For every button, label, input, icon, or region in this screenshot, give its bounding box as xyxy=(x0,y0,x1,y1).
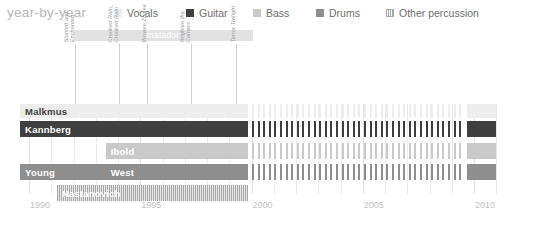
label-band-matador: matador xyxy=(74,30,253,41)
album-marker-label-line: Corners xyxy=(185,11,191,42)
legend-item-vocals[interactable]: Vocals xyxy=(114,6,158,20)
timeline-row: YoungWest xyxy=(0,164,554,180)
album-marker-label: Brighten theCorners xyxy=(179,11,191,44)
timeline-segment[interactable] xyxy=(252,104,464,118)
timeline-segment[interactable]: Kannberg xyxy=(20,121,248,137)
timeline-segment[interactable]: West xyxy=(106,164,248,180)
legend-swatch-icon xyxy=(386,9,394,17)
timeline-segment-label: West xyxy=(111,167,134,178)
album-marker: Wowee Zowee xyxy=(147,44,148,106)
album-marker-label-line: Crooked Rain xyxy=(113,5,119,42)
album-marker: Brighten theCorners xyxy=(191,44,192,106)
timeline-segment-label: Young xyxy=(25,167,55,178)
timeline-segment[interactable] xyxy=(467,143,496,159)
album-marker-label: Terror Twilight xyxy=(230,6,236,44)
legend-item-guitar[interactable]: Guitar xyxy=(186,6,228,20)
legend-swatch-icon xyxy=(316,9,324,17)
timeline-segment[interactable] xyxy=(252,121,464,137)
album-marker-label: Wowee Zowee xyxy=(141,4,147,44)
album-marker: Slanted andEnchanted xyxy=(75,44,76,106)
timeline-segment-label: Malkmus xyxy=(25,106,67,117)
album-marker: Terror Twilight xyxy=(236,44,237,106)
legend-item-other-percussion[interactable]: Other percussion xyxy=(386,6,479,20)
album-marker-label-line: Terror Twilight xyxy=(230,6,236,42)
album-marker-label-line: Wowee Zowee xyxy=(141,4,147,42)
timeline-row: Ibold xyxy=(0,143,554,159)
timeline-segment[interactable]: Ibold xyxy=(106,143,248,159)
label-band-text: matador xyxy=(74,30,253,41)
album-marker-label: Crooked Rain,Crooked Rain xyxy=(107,5,119,44)
legend-label: Guitar xyxy=(199,7,228,19)
legend-swatch-icon xyxy=(253,9,261,17)
legend-item-bass[interactable]: Bass xyxy=(253,6,289,20)
legend-label: Drums xyxy=(329,7,360,19)
timeline-segment[interactable] xyxy=(467,121,496,137)
album-marker-label-line: Enchanted xyxy=(68,11,74,42)
timeline-segment[interactable] xyxy=(252,143,464,159)
timeline-segment-label: Kannberg xyxy=(25,124,71,135)
x-axis-tick-label: 2005 xyxy=(364,200,384,210)
x-axis-tick-label: 1995 xyxy=(141,200,161,210)
album-marker-label-line: Slanted and xyxy=(62,11,68,42)
timeline-row: Malkmus xyxy=(0,104,554,118)
timeline-segment[interactable] xyxy=(467,104,496,118)
timeline-segment[interactable]: Malkmus xyxy=(20,104,248,118)
chart-header: year-by-year VocalsGuitarBassDrumsOther … xyxy=(0,0,554,26)
album-marker: Crooked Rain,Crooked Rain xyxy=(119,44,120,106)
album-marker-label: Slanted andEnchanted xyxy=(62,11,74,44)
legend-label: Bass xyxy=(266,7,289,19)
legend-label: Other percussion xyxy=(399,7,479,19)
legend-item-drums[interactable]: Drums xyxy=(316,6,360,20)
timeline-row: Kannberg xyxy=(0,121,554,137)
timeline-segment[interactable] xyxy=(252,164,464,180)
x-axis-tick-label: 2000 xyxy=(253,200,273,210)
timeline-segment-label: Ibold xyxy=(111,146,135,157)
timeline-plot: MalkmusKannbergIboldYoungWestNastanovich xyxy=(0,104,554,194)
x-axis: 19901995200020052010 xyxy=(0,194,554,225)
timeline-segment[interactable]: Young xyxy=(20,164,106,180)
timeline-segment[interactable] xyxy=(467,164,496,180)
x-axis-tick-label: 2010 xyxy=(475,200,495,210)
x-axis-tick-label: 1990 xyxy=(30,200,50,210)
